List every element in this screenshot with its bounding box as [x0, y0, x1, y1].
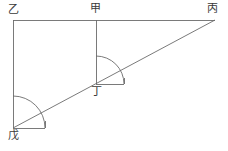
geometry-canvas: [0, 0, 228, 151]
vertex-label-bing: 丙: [207, 3, 218, 14]
segment-diagonal-wu-to-bing: [13, 20, 215, 128]
vertex-label-jia: 甲: [90, 3, 101, 14]
vertex-label-ding: 丁: [91, 86, 102, 97]
angle-arc-at-wu: [13, 96, 45, 128]
geometry-diagram: 乙 甲 丙 丁 戊: [0, 0, 228, 151]
angle-arc-at-ding: [96, 56, 124, 84]
vertex-label-yi: 乙: [8, 4, 19, 15]
vertex-label-wu: 戊: [8, 130, 19, 141]
